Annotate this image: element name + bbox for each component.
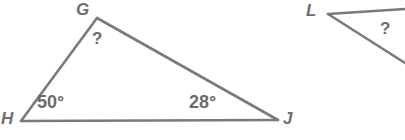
triangle-side-hj [21,120,278,121]
figure-canvas [0,0,405,140]
angle-measure-h: 50° [37,93,64,111]
vertex-label-h: H [1,110,13,127]
triangle-l-outline [328,9,405,63]
angle-measure-j: 28° [189,93,216,111]
vertex-label-j: J [283,110,292,127]
triangle-l-side-top [328,9,405,14]
angle-measure-g-unknown: ? [92,30,102,47]
triangle-side-gj [97,18,278,120]
vertex-label-l: L [306,2,316,19]
angle-measure-l-unknown: ? [380,20,390,37]
triangle-figure: G H J 50° 28° ? L ? [0,0,405,140]
triangle-l-side-diagonal [328,14,405,63]
vertex-label-g: G [76,1,89,18]
